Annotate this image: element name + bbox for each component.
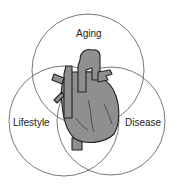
label-disease: Disease — [125, 118, 161, 128]
label-aging: Aging — [76, 29, 102, 39]
label-lifestyle: Lifestyle — [13, 118, 50, 128]
heart-icon — [52, 49, 119, 150]
